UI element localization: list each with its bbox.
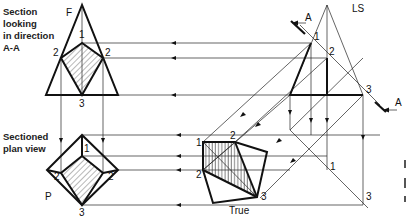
arrow-down-icon bbox=[101, 138, 105, 143]
plan-caption-line2: plan view bbox=[3, 143, 46, 154]
cutting-plane-label-top: A bbox=[305, 12, 312, 23]
side-point-3: 3 bbox=[366, 84, 372, 95]
mitre-line bbox=[290, 130, 368, 208]
arrow-diagonal-icon bbox=[290, 158, 296, 163]
edge-mark bbox=[404, 196, 406, 202]
edge-mark bbox=[404, 178, 406, 188]
plan-section-hatch bbox=[61, 156, 103, 205]
front-caption-line2: looking bbox=[3, 18, 37, 29]
plan-point-3: 3 bbox=[79, 207, 85, 218]
side-view-label: LS bbox=[352, 3, 365, 14]
arrow-down-icon bbox=[309, 118, 313, 123]
arrow-left-icon bbox=[171, 56, 176, 60]
plan-point-2-right: 2 bbox=[108, 171, 114, 182]
front-point-1: 1 bbox=[79, 29, 85, 40]
side-view: A A LS 1 2 3 bbox=[288, 3, 402, 205]
arrow-left-icon bbox=[171, 93, 176, 97]
front-point-2-right: 2 bbox=[105, 47, 111, 58]
arrow-left-icon bbox=[176, 133, 181, 137]
front-point-2-left: 2 bbox=[53, 47, 59, 58]
cutting-plane-label-bottom: A bbox=[395, 97, 402, 108]
plan-caption-line1: Sectioned bbox=[3, 131, 49, 142]
diagonal-projector-3 bbox=[260, 95, 363, 198]
arrow-down-icon bbox=[59, 138, 63, 143]
plan-view-label: P bbox=[45, 191, 52, 202]
page-edge-marks bbox=[404, 160, 406, 202]
front-point-3: 3 bbox=[79, 98, 85, 109]
front-view-label: F bbox=[66, 7, 72, 18]
edge-mark bbox=[404, 160, 406, 168]
true-shape-label: True bbox=[229, 205, 250, 216]
arrow-diagonal-icon bbox=[276, 138, 282, 143]
arrow-left-icon bbox=[171, 41, 176, 45]
true-point-3: 3 bbox=[261, 191, 267, 202]
arrow-down-icon bbox=[361, 135, 365, 140]
arrow-left-icon bbox=[176, 154, 181, 158]
front-caption-line4: A-A bbox=[3, 42, 20, 53]
plan-point-2-left: 2 bbox=[54, 171, 60, 182]
arrow-down-icon bbox=[288, 110, 292, 115]
fold-point-3: 3 bbox=[366, 191, 372, 202]
arrow-left-icon bbox=[176, 203, 181, 207]
arrow-down-icon bbox=[325, 118, 329, 123]
side-point-1: 1 bbox=[314, 31, 320, 42]
side-point-2: 2 bbox=[329, 46, 335, 57]
true-shape-view: 1 2 2 3 True bbox=[196, 130, 267, 216]
true-point-1: 1 bbox=[196, 137, 202, 148]
true-point-2-top: 2 bbox=[230, 130, 236, 141]
front-caption-line1: Section bbox=[3, 6, 38, 17]
arrow-left-icon bbox=[176, 168, 181, 172]
fold-point-1: 1 bbox=[330, 161, 336, 172]
arrow-diagonal-icon bbox=[240, 112, 246, 117]
orthographic-section-drawing: F 1 2 2 3 Section looking in direction A… bbox=[0, 0, 409, 218]
plan-point-1: 1 bbox=[84, 143, 90, 154]
true-point-2-left: 2 bbox=[196, 169, 202, 180]
front-caption-line3: in direction bbox=[3, 30, 54, 41]
